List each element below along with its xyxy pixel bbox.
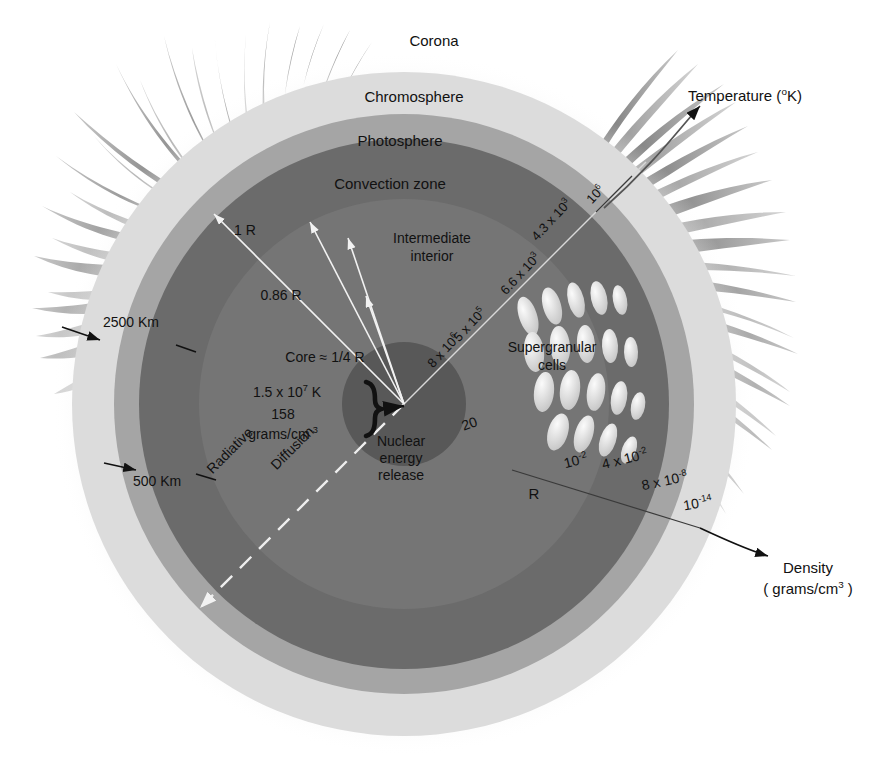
photosphere-thickness-label: 500 Km xyxy=(133,474,181,490)
chromosphere-thickness-label: 2500 Km xyxy=(103,315,159,331)
diagram-canvas xyxy=(0,0,872,771)
density-value-4-exponent: -14 xyxy=(697,492,712,504)
temperature-axis-label-end: K) xyxy=(787,87,802,104)
radius-outer-label: 1 R xyxy=(234,223,256,239)
temperature-axis-label: Temperature (oK) xyxy=(688,86,802,105)
supergranular-cells-label-line2: cells xyxy=(538,358,566,374)
core-temperature-unit: K xyxy=(308,384,321,400)
core-density-value: 158 xyxy=(271,407,294,423)
intermediate-interior-label-line2: interior xyxy=(411,249,454,265)
radius-086-label: 0.86 R xyxy=(260,288,301,304)
corona-label: Corona xyxy=(409,33,458,50)
sun-structure-diagram: Corona Chromosphere Photosphere Convecti… xyxy=(0,0,872,771)
temperature-axis-label-text: Temperature ( xyxy=(688,87,781,104)
convection-zone-label: Convection zone xyxy=(334,176,446,193)
photosphere-label: Photosphere xyxy=(357,133,442,150)
density-value-3-exponent: -8 xyxy=(677,467,687,478)
core-radius-label: Core ≈ 1/4 R xyxy=(285,350,364,366)
nuclear-release-label-line1: Nuclear xyxy=(377,434,425,450)
density-axis-label-line2-text: ( grams/cm xyxy=(763,580,838,597)
density-axis-label-line2-end: ) xyxy=(844,580,853,597)
supergranular-cells-label-line1: Supergranular xyxy=(508,340,597,356)
density-axis-label-line1: Density xyxy=(783,560,833,577)
core-temperature-value: 1.5 x 107 K xyxy=(253,383,321,400)
r-marker-label: R xyxy=(529,486,540,503)
nuclear-release-label-line3: release xyxy=(378,468,424,484)
core-temperature-mantissa: 1.5 x 10 xyxy=(253,384,303,400)
chromosphere-label: Chromosphere xyxy=(364,89,463,106)
nuclear-release-label-line2: energy xyxy=(380,451,423,467)
intermediate-interior-label-line1: Intermediate xyxy=(393,231,471,247)
density-axis-label-line2: ( grams/cm3 ) xyxy=(763,579,853,598)
